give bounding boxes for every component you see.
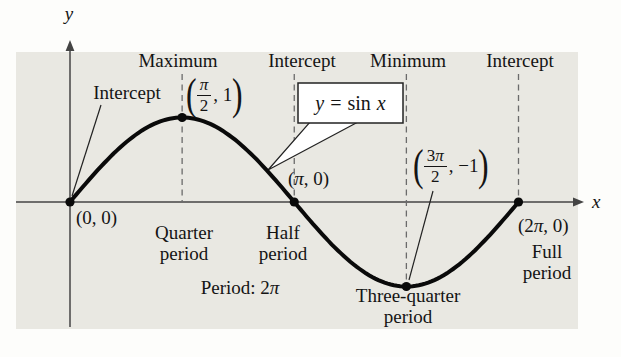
period-label: Period: 2π <box>201 277 280 298</box>
three-quarter-period-label: Three-quarter period <box>356 285 460 327</box>
full-period-label: Full period <box>523 241 572 283</box>
point-dot-π <box>290 197 299 206</box>
pi-point-label: (π, 0) <box>288 168 329 189</box>
max-point-label: ( π 2 , 1 ) <box>186 74 243 116</box>
y-axis-arrow-icon <box>66 40 75 51</box>
open-paren: ( <box>186 73 197 117</box>
close-paren: ) <box>478 144 489 188</box>
annotation-intercept-left: Intercept <box>93 82 161 103</box>
min-point-label: ( 3π 2 , −1 ) <box>413 145 489 187</box>
origin-point-label: (0, 0) <box>76 207 117 228</box>
annotation-intercept-right: Intercept <box>486 50 554 71</box>
quarter-period-label: Quarter period <box>155 222 213 264</box>
fraction-3pi-over-2: 3π 2 <box>424 147 447 185</box>
open-paren: ( <box>413 144 424 188</box>
x-axis-arrow-icon <box>573 198 584 207</box>
x-axis-label: x <box>592 191 600 212</box>
equation-label: y = sin x <box>298 83 403 123</box>
equation-callout-tail <box>268 122 358 170</box>
half-period-label: Half period <box>259 222 308 264</box>
point-dot-2π <box>514 197 523 206</box>
figure-canvas: y x Intercept Maximum Intercept Minimum … <box>0 0 621 357</box>
fraction-pi-over-2: π 2 <box>197 76 212 114</box>
close-paren: ) <box>232 73 243 117</box>
annotation-maximum: Maximum <box>138 50 217 71</box>
two-pi-point-label: (2π, 0) <box>518 215 569 236</box>
annotation-intercept-top: Intercept <box>268 50 336 71</box>
annotation-minimum: Minimum <box>370 50 446 71</box>
point-dot-0 <box>65 197 74 206</box>
y-axis-label: y <box>65 3 73 24</box>
minimum-leader-line <box>409 191 433 280</box>
